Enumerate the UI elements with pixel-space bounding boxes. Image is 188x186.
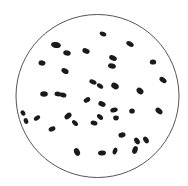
particle <box>71 119 79 127</box>
particle <box>154 106 163 115</box>
field-canvas <box>0 0 188 186</box>
particle <box>63 50 72 57</box>
particle <box>60 67 69 75</box>
particle <box>89 78 98 85</box>
particle <box>112 147 119 155</box>
particle <box>40 91 48 97</box>
particle <box>158 76 167 85</box>
particle <box>129 108 135 113</box>
particle <box>131 145 139 154</box>
particle <box>118 132 126 138</box>
particle <box>23 117 29 124</box>
particle <box>125 40 134 48</box>
particle <box>33 114 41 122</box>
particle <box>108 54 117 62</box>
particle <box>73 147 81 157</box>
particle-group <box>20 31 168 157</box>
particle <box>20 109 27 116</box>
particle <box>107 62 116 69</box>
particle <box>96 82 104 90</box>
particle <box>81 47 90 55</box>
particle <box>133 137 141 146</box>
particle <box>63 111 72 120</box>
particle <box>38 60 46 66</box>
field-boundary-circle <box>16 15 179 178</box>
particle <box>90 120 98 126</box>
particle <box>48 126 56 133</box>
particle <box>97 100 106 108</box>
particle <box>142 136 150 145</box>
particle <box>110 81 120 90</box>
particle <box>113 116 119 121</box>
particle <box>150 59 156 64</box>
particle <box>96 113 104 121</box>
particle <box>99 31 107 38</box>
particle <box>51 41 62 49</box>
particle <box>110 107 119 114</box>
microscope-field-diagram <box>0 0 188 186</box>
particle <box>83 96 91 104</box>
particle <box>98 150 106 155</box>
particle <box>135 86 144 95</box>
